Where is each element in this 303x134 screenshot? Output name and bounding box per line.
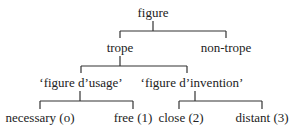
- node-free: free (1): [114, 111, 153, 124]
- node-figure: figure: [137, 6, 168, 19]
- node-trope: trope: [107, 41, 134, 54]
- node-figure-d-invention: ‘figure d’invention’: [141, 76, 244, 89]
- node-non-trope: non-trope: [201, 41, 252, 54]
- node-distant: distant (3): [235, 111, 288, 124]
- node-necessary: necessary (o): [6, 111, 75, 124]
- node-figure-d-usage: ‘figure d’usage’: [39, 76, 122, 89]
- node-close: close (2): [158, 111, 203, 124]
- taxonomy-tree: figure trope non-trope ‘figure d’usage’ …: [0, 0, 303, 134]
